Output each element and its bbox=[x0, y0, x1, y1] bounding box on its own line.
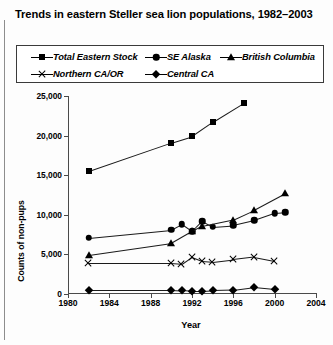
x-axis-tick-label: 1980 bbox=[58, 298, 77, 308]
diamond-marker bbox=[271, 285, 279, 293]
y-axis-tick-label: 5,000 bbox=[41, 249, 62, 259]
x-marker bbox=[38, 70, 47, 79]
legend-item-label: Northern CA/OR bbox=[53, 69, 123, 79]
y-axis-tick-label: 20,000 bbox=[36, 131, 62, 141]
legend-item[interactable]: British Columbia bbox=[220, 49, 315, 65]
x-axis-tick-label: 2000 bbox=[265, 298, 284, 308]
plot-region: 05,00010,00015,00020,00025,0001980198419… bbox=[68, 96, 316, 294]
legend-item-label: Total Eastern Stock bbox=[53, 52, 138, 62]
diamond-marker bbox=[250, 283, 258, 291]
legend-item-label: British Columbia bbox=[242, 52, 315, 62]
legend-item-label: SE Alaska bbox=[167, 52, 211, 62]
legend-item[interactable]: Central CA bbox=[145, 66, 214, 82]
chart-area: Counts of non-pups Year 05,00010,00015,0… bbox=[0, 86, 333, 345]
triangle-marker bbox=[227, 53, 235, 60]
diamond-marker bbox=[167, 286, 175, 294]
diamond-marker bbox=[188, 287, 196, 295]
y-axis-tick-label: 25,000 bbox=[36, 91, 62, 101]
x-axis-label: Year bbox=[62, 320, 320, 330]
diamond-marker bbox=[178, 286, 186, 294]
legend-row: Total Eastern StockSE AlaskaBritish Colu… bbox=[17, 49, 323, 65]
chart-legend: Total Eastern StockSE AlaskaBritish Colu… bbox=[16, 45, 324, 83]
y-axis-tick-label: 15,000 bbox=[36, 170, 62, 180]
legend-symbol bbox=[31, 50, 53, 64]
diamond-marker bbox=[152, 70, 160, 78]
square-marker bbox=[39, 54, 45, 60]
legend-symbol bbox=[145, 67, 167, 81]
legend-item[interactable]: Northern CA/OR bbox=[31, 66, 123, 82]
series-line-segment bbox=[89, 290, 172, 291]
x-axis-tick-label: 1984 bbox=[100, 298, 119, 308]
legend-item[interactable]: SE Alaska bbox=[145, 49, 211, 65]
legend-row: Northern CA/ORCentral CA bbox=[17, 66, 323, 82]
diamond-marker bbox=[85, 286, 93, 294]
chart-page: Trends in eastern Steller sea lion popul… bbox=[0, 0, 333, 345]
chart-title: Trends in eastern Steller sea lion popul… bbox=[15, 8, 315, 21]
diamond-marker bbox=[229, 286, 237, 294]
y-axis-tick-label: 10,000 bbox=[36, 210, 62, 220]
legend-symbol bbox=[145, 50, 167, 64]
x-axis-tick-label: 1992 bbox=[182, 298, 201, 308]
legend-symbol bbox=[220, 50, 242, 64]
x-axis-tick-label: 1996 bbox=[224, 298, 243, 308]
diamond-marker bbox=[198, 287, 206, 295]
y-axis-label: Counts of non-pups bbox=[16, 186, 26, 296]
legend-item-label: Central CA bbox=[167, 69, 214, 79]
x-axis-tick-label: 2004 bbox=[306, 298, 325, 308]
circle-marker bbox=[153, 54, 160, 61]
legend-item[interactable]: Total Eastern Stock bbox=[31, 49, 138, 65]
diamond-marker bbox=[209, 287, 217, 295]
x-axis-tick-label: 1988 bbox=[141, 298, 160, 308]
data-series bbox=[68, 96, 316, 294]
legend-symbol bbox=[31, 67, 53, 81]
